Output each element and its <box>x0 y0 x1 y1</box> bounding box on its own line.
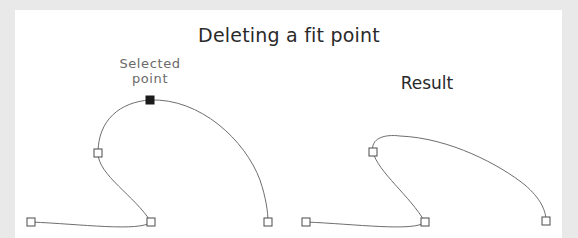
spline-curve-before <box>31 100 268 227</box>
fit-point-icon[interactable] <box>27 218 35 226</box>
fit-point-icon[interactable] <box>264 218 272 226</box>
spline-diagram <box>0 0 578 238</box>
spline-curve-result <box>306 136 546 227</box>
spline-before <box>27 96 272 227</box>
fit-point-icon[interactable] <box>302 218 310 226</box>
fit-point-icon[interactable] <box>369 148 377 156</box>
fit-point-icon[interactable] <box>542 217 550 225</box>
fit-point-icon[interactable] <box>421 218 429 226</box>
fit-point-icon[interactable] <box>94 149 102 157</box>
fit-point-icon[interactable] <box>147 218 155 226</box>
selected-fit-point-icon[interactable] <box>146 96 154 104</box>
spline-result <box>302 136 550 227</box>
